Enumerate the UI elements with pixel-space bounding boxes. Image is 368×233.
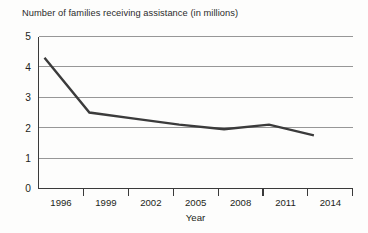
x-tick-label-2014: 2014 <box>320 197 342 208</box>
data-series-line <box>45 58 314 136</box>
x-axis-title: Year <box>186 212 206 223</box>
y-tick-label-1: 1 <box>25 153 31 164</box>
x-tick-label-1996: 1996 <box>50 197 71 208</box>
y-tick-label-5: 5 <box>25 31 31 42</box>
x-tick-label-2008: 2008 <box>230 197 251 208</box>
y-tick-label-2: 2 <box>25 123 31 134</box>
y-tick-label-0: 0 <box>25 183 31 194</box>
x-tick-label-2002: 2002 <box>140 197 161 208</box>
x-tick-label-2005: 2005 <box>185 197 206 208</box>
line-chart: Number of families receiving assistance … <box>0 0 368 233</box>
y-tick-label-4: 4 <box>25 62 31 73</box>
x-tick-label-1999: 1999 <box>95 197 116 208</box>
x-tick-label-2011: 2011 <box>275 197 296 208</box>
chart-plot-area: 5 4 3 2 1 0 1996 1999 2002 2005 2008 201… <box>0 0 368 233</box>
y-tick-label-3: 3 <box>25 92 31 103</box>
